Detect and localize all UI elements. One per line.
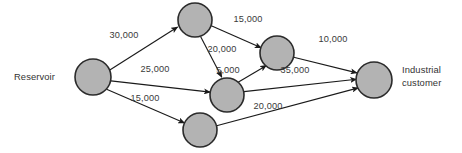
edge-label-center-to-customer: 35,000 [280, 65, 309, 75]
edge-center-to-customer [244, 79, 357, 91]
network-flow-diagram: 30,000 15,000 20,000 25,000 5,000 10,000… [0, 0, 462, 153]
nodes-group [75, 3, 392, 147]
node-top[interactable] [178, 3, 212, 37]
label-industrial-customer-line1: Industrial [402, 64, 441, 75]
edge-label-reservoir-to-bottom: 15,000 [130, 93, 159, 103]
network-diagram-canvas: 30,000 15,000 20,000 25,000 5,000 10,000… [0, 0, 462, 153]
node-customer[interactable] [356, 62, 392, 98]
edge-label-top-to-upperright: 15,000 [233, 14, 262, 24]
edge-label-reservoir-to-top: 30,000 [109, 30, 138, 40]
label-reservoir: Reservoir [14, 71, 55, 82]
edge-label-bottom-to-customer: 20,000 [253, 101, 282, 111]
node-center[interactable] [210, 78, 244, 112]
node-bottom[interactable] [183, 113, 217, 147]
node-reservoir[interactable] [75, 59, 111, 95]
label-industrial-customer-line2: customer [402, 77, 441, 88]
edge-center-to-upperright [238, 65, 266, 82]
edge-label-upperright-to-customer: 10,000 [318, 34, 347, 44]
edge-label-center-to-upperright: 5,000 [216, 65, 240, 75]
edge-reservoir-to-center [111, 81, 210, 92]
edge-label-top-to-center: 20,000 [207, 44, 236, 54]
edge-label-reservoir-to-center: 25,000 [140, 64, 169, 74]
